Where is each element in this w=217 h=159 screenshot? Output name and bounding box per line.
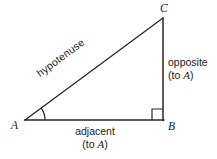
vertex-label-c: C <box>160 3 168 15</box>
opposite-label-suffix: ) <box>190 69 194 81</box>
opposite-label-variable: A <box>183 69 190 81</box>
trigonometry-figure: A B C hypotenuse opposite (to A) adjacen… <box>0 0 217 159</box>
adjacent-label-suffix: ) <box>104 138 108 150</box>
angle-arc-icon <box>41 108 45 120</box>
opposite-label-line1: opposite <box>168 56 208 69</box>
opposite-label: opposite (to A) <box>168 56 208 83</box>
adjacent-label-line2: (to A) <box>62 138 128 152</box>
adjacent-label: adjacent (to A) <box>62 125 128 152</box>
opposite-label-prefix: (to <box>168 69 183 81</box>
vertex-label-a: A <box>11 120 18 132</box>
vertex-label-b: B <box>168 121 175 133</box>
adjacent-label-prefix: (to <box>82 138 97 150</box>
opposite-label-line2: (to A) <box>168 69 208 83</box>
right-angle-square-icon <box>152 109 163 120</box>
adjacent-label-line1: adjacent <box>62 125 128 138</box>
